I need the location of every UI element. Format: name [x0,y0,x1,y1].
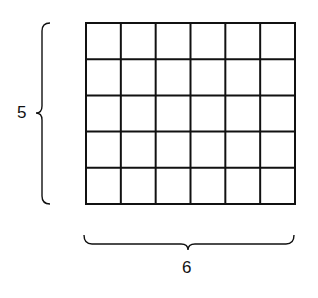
width-label: 6 [182,259,191,276]
bottom-brace [84,235,294,250]
grid-diagram [0,0,318,298]
rectangle-grid [86,23,295,204]
left-brace [36,23,50,204]
height-label: 5 [17,104,26,121]
